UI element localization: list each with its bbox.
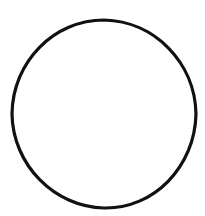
circle-shape-svg xyxy=(0,0,205,216)
drawing-canvas xyxy=(0,0,205,216)
canvas-background xyxy=(0,0,205,216)
